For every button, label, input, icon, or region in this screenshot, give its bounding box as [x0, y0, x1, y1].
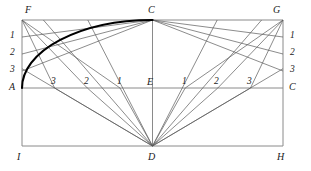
- base-right-tick-label-2: 2: [214, 77, 219, 87]
- base-right-tick-label-3: 3: [247, 77, 252, 87]
- vertex-label-i: I: [17, 152, 20, 162]
- C-to-right-3: [153, 20, 284, 71]
- vertex-label-a: A: [9, 82, 15, 92]
- vertex-label-d: D: [148, 152, 155, 162]
- G-to-base-3: [251, 20, 284, 88]
- C-to-left-2: [22, 20, 153, 54]
- D-through-left-2-to-top: [43, 20, 152, 146]
- left-tick-label-1: 1: [10, 31, 15, 41]
- D-to-base-left-2: [87, 88, 152, 146]
- C-to-right-1: [153, 20, 284, 37]
- left-tick-label-3: 3: [10, 65, 15, 75]
- C-to-left-3: [22, 20, 153, 71]
- left-tick-label-2: 2: [10, 48, 15, 58]
- diagram-canvas: FGCACEIHD123123321123: [0, 0, 311, 171]
- D-to-base-right-1: [153, 88, 186, 146]
- vertex-label-c-top: C: [148, 5, 155, 15]
- right-tick-label-1: 1: [290, 31, 295, 41]
- C-to-right-2: [153, 20, 284, 54]
- base-left-tick-label-3: 1: [117, 77, 122, 87]
- base-left-tick-label-2: 2: [84, 77, 89, 87]
- vertex-label-g: G: [273, 5, 280, 15]
- vertex-label-c-right: C: [289, 82, 296, 92]
- D-to-base-left-1: [120, 88, 153, 146]
- base-left-tick-label-1: 3: [51, 77, 56, 87]
- vertex-label-h: H: [277, 152, 284, 162]
- base-right-tick-label-1: 1: [182, 77, 187, 87]
- D-to-base-right-2: [153, 88, 218, 146]
- vertex-label-e: E: [147, 77, 153, 87]
- right-tick-label-3: 3: [290, 65, 295, 75]
- right-tick-label-2: 2: [290, 48, 295, 58]
- vertex-label-f: F: [25, 5, 31, 15]
- D-through-right-2-to-top: [153, 20, 262, 146]
- geometry-svg: [0, 0, 311, 171]
